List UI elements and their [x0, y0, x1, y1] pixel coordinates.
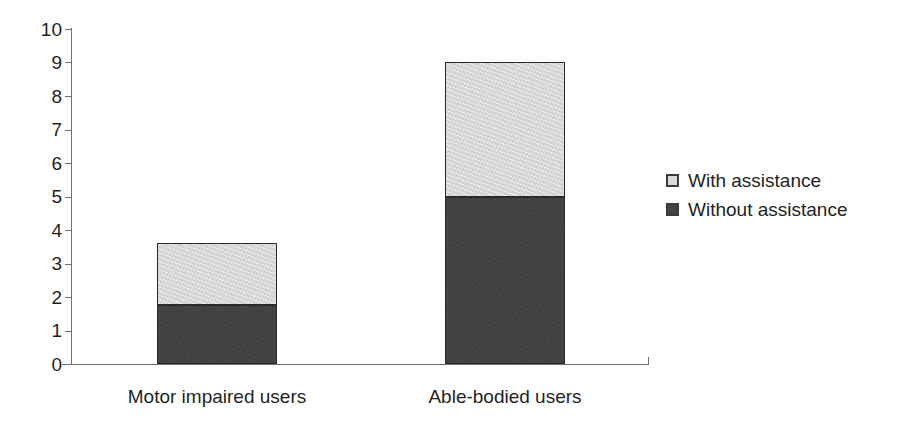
legend-label-without-assistance: Without assistance: [688, 200, 847, 219]
bar-segment-without-assistance: [445, 197, 565, 364]
bar-motor-impaired-users: [157, 243, 277, 364]
legend-label-with-assistance: With assistance: [688, 171, 821, 190]
x-axis-line: [71, 364, 649, 365]
x-axis-end-tick: [648, 357, 649, 365]
y-axis-label-4: 4: [16, 221, 62, 240]
y-axis-label-2: 2: [16, 288, 62, 307]
bar-able-bodied-users: [445, 62, 565, 364]
y-axis-label-10: 10: [16, 20, 62, 39]
y-axis-label-8: 8: [16, 87, 62, 106]
x-axis-category-label-motor-impaired-users: Motor impaired users: [107, 386, 327, 408]
y-axis-label-0: 0: [16, 355, 62, 374]
y-axis-label-3: 3: [16, 254, 62, 273]
legend-item-with-assistance: With assistance: [666, 166, 847, 195]
legend: With assistance Without assistance: [666, 166, 847, 224]
x-axis-category-label-able-bodied-users: Able-bodied users: [405, 386, 605, 408]
bar-segment-with-assistance: [445, 62, 565, 197]
legend-swatch-icon-without-assistance: [666, 203, 679, 216]
legend-swatch-icon-with-assistance: [666, 174, 679, 187]
y-axis-labels: 10 9 8 7 6 5 4 3 2 1 0: [0, 0, 62, 427]
bar-segment-with-assistance: [157, 243, 277, 305]
bar-segment-without-assistance: [157, 305, 277, 364]
y-axis-label-9: 9: [16, 53, 62, 72]
y-axis-label-7: 7: [16, 120, 62, 139]
y-axis-label-1: 1: [16, 321, 62, 340]
y-axis-line: [71, 28, 72, 365]
y-axis-label-6: 6: [16, 154, 62, 173]
stacked-bar-chart: 10 9 8 7 6 5 4 3 2 1 0 Motor impaired us…: [0, 0, 902, 427]
y-axis-label-5: 5: [16, 187, 62, 206]
legend-item-without-assistance: Without assistance: [666, 195, 847, 224]
